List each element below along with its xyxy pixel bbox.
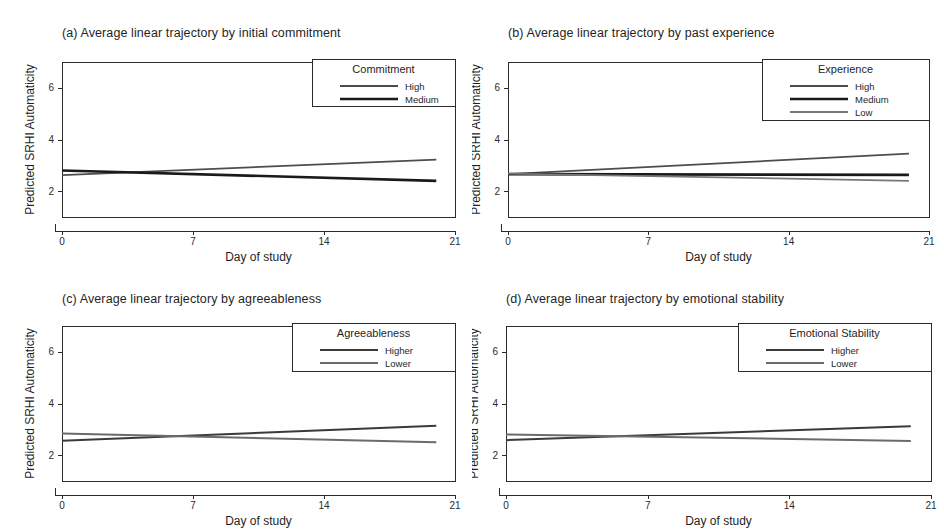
panel-c-plot: 246071421Day of studyPredicted SRHI Auto… [0,266,472,531]
y-axis-title: Predicted SRHI Automaticity [23,328,37,479]
x-tick-label: 14 [318,236,330,247]
y-tick-label: 6 [494,82,500,93]
panel-c: (c) Average linear trajectory by agreeab… [0,266,472,531]
legend-label-low[interactable]: Low [855,107,873,118]
x-tick-label: 14 [318,500,330,511]
series-line-medium [62,171,436,181]
x-tick-label: 7 [646,236,652,247]
y-tick-label: 4 [48,398,54,409]
panel-b-plot: 246071421Day of studyPredicted SRHI Auto… [472,0,944,265]
x-tick-label: 7 [190,500,196,511]
x-tick-label: 21 [449,236,461,247]
y-axis-title: Predicted SRHI Automaticity [472,64,483,215]
x-tick-label: 0 [59,500,65,511]
legend-title: Agreeableness [337,327,411,339]
figure-canvas: (a) Average linear trajectory by initial… [0,0,944,531]
y-tick-label: 4 [494,134,500,145]
panel-d: (d) Average linear trajectory by emotion… [472,266,944,531]
legend-label-higher[interactable]: Higher [385,345,413,356]
y-tick-label: 2 [48,450,54,461]
y-tick-label: 4 [48,134,54,145]
x-tick-label: 0 [59,236,65,247]
x-axis-title: Day of study [225,514,292,528]
panel-b: (b) Average linear trajectory by past ex… [472,0,944,265]
legend-title: Experience [818,63,873,75]
y-axis-title: Predicted SRHI Automaticity [23,64,37,215]
x-tick-label: 7 [190,236,196,247]
legend-label-higher[interactable]: Higher [831,345,859,356]
legend-label-lower[interactable]: Lower [385,358,411,369]
legend-label-high[interactable]: High [855,81,875,92]
y-tick-label: 2 [494,186,500,197]
x-tick-label: 0 [503,500,509,511]
legend-label-high[interactable]: High [405,81,425,92]
legend-label-medium[interactable]: Medium [855,94,889,105]
y-tick-label: 2 [492,450,498,461]
y-tick-label: 6 [492,346,498,357]
legend-title: Commitment [352,63,414,75]
y-tick-label: 6 [48,82,54,93]
x-axis-title: Day of study [685,514,752,528]
y-tick-label: 2 [48,186,54,197]
y-tick-label: 6 [48,346,54,357]
x-tick-label: 21 [925,500,937,511]
x-axis-title: Day of study [685,250,752,264]
panel-a: (a) Average linear trajectory by initial… [0,0,472,265]
series-line-high [508,154,909,174]
x-axis-title: Day of study [225,250,292,264]
x-tick-label: 0 [505,236,511,247]
x-tick-label: 7 [645,500,651,511]
panel-a-plot: 246071421Day of studyPredicted SRHI Auto… [0,0,472,265]
x-tick-label: 21 [449,500,461,511]
x-tick-label: 14 [783,236,795,247]
x-tick-label: 14 [784,500,796,511]
y-tick-label: 4 [492,398,498,409]
legend-title: Emotional Stability [789,327,880,339]
legend-label-lower[interactable]: Lower [831,358,857,369]
panel-d-plot: 246071421Day of studyPredicted SRHI Auto… [472,266,944,531]
x-tick-label: 21 [923,236,935,247]
y-axis-title: Predicted SRHI Automaticity [472,328,481,479]
legend-label-medium[interactable]: Medium [405,94,439,105]
